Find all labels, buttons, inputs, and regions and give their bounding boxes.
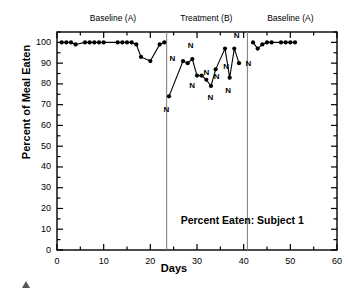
data-point (181, 59, 185, 63)
data-point (223, 47, 227, 51)
data-point (204, 78, 208, 82)
data-point (260, 42, 264, 46)
data-point (288, 40, 292, 44)
data-point (209, 84, 213, 88)
phase-label-1: Treatment (B) (161, 13, 251, 23)
y-tick-label: 30 (25, 182, 51, 192)
y-tick-label: 70 (25, 99, 51, 109)
y-tick-label: 100 (25, 37, 51, 47)
point-annotation-n: N (170, 55, 176, 63)
point-annotation-n: N (223, 63, 229, 71)
data-point (265, 40, 269, 44)
y-tick-label: 90 (25, 58, 51, 68)
data-point (148, 59, 152, 63)
data-point (293, 40, 297, 44)
point-annotation-n: N (189, 82, 195, 90)
data-point (116, 40, 120, 44)
data-point (195, 74, 199, 78)
data-point (92, 40, 96, 44)
data-point (270, 40, 274, 44)
y-tick-label: 40 (25, 161, 51, 171)
data-point (130, 40, 134, 44)
x-tick-label: 30 (184, 256, 210, 266)
plot-canvas (0, 0, 348, 295)
data-point (120, 40, 124, 44)
phase-label-2: Baseline (A) (245, 13, 335, 23)
data-point (232, 47, 236, 51)
point-annotation-n: N (208, 94, 214, 102)
data-point (125, 40, 129, 44)
data-point (214, 67, 218, 71)
x-tick-label: 60 (324, 256, 348, 266)
x-tick-label: 0 (44, 256, 70, 266)
y-tick-label: 80 (25, 78, 51, 88)
point-annotation-n: N (214, 73, 220, 81)
data-point (83, 40, 87, 44)
y-tick-label: 20 (25, 203, 51, 213)
chart-figure: Percent of Meal Eaten Days Percent Eaten… (0, 0, 348, 295)
x-tick-label: 50 (277, 256, 303, 266)
data-point (256, 47, 260, 51)
data-point (162, 40, 166, 44)
x-tick-label: 20 (137, 256, 163, 266)
data-point (190, 57, 194, 61)
point-annotation-n: N (246, 60, 252, 68)
data-point (251, 40, 255, 44)
data-point (74, 42, 78, 46)
point-annotation-n: N (188, 42, 194, 50)
y-tick-label: 10 (25, 224, 51, 234)
point-annotation-n: N (204, 69, 210, 77)
data-point (158, 42, 162, 46)
data-point (237, 61, 241, 65)
y-tick-label: 50 (25, 141, 51, 151)
y-tick-label: 0 (25, 245, 51, 255)
phase-label-0: Baseline (A) (68, 13, 158, 23)
point-annotation-n: N (234, 32, 240, 40)
page-arrow-marker (22, 281, 30, 288)
y-tick-label: 60 (25, 120, 51, 130)
data-point (64, 40, 68, 44)
data-point (228, 76, 232, 80)
data-point (69, 40, 73, 44)
plot-annotation: Percent Eaten: Subject 1 (181, 214, 304, 226)
data-point (279, 40, 283, 44)
point-annotation-n: N (164, 106, 170, 114)
data-point (97, 40, 101, 44)
data-point (186, 61, 190, 65)
x-tick-label: 40 (231, 256, 257, 266)
data-point (284, 40, 288, 44)
data-point (88, 40, 92, 44)
data-point (167, 94, 171, 98)
data-point (139, 55, 143, 59)
data-point (102, 40, 106, 44)
data-point (60, 40, 64, 44)
data-point (134, 42, 138, 46)
point-annotation-n: N (225, 87, 231, 95)
x-tick-label: 10 (91, 256, 117, 266)
